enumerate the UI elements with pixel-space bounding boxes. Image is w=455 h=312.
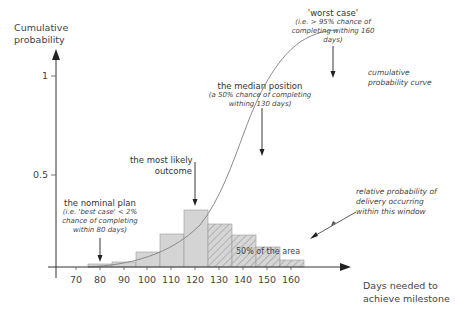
- relative-label-line3: within this window: [356, 207, 426, 217]
- x-tick-label: 90: [114, 274, 134, 286]
- arrow-icon: [310, 232, 318, 239]
- chart-canvas: [0, 0, 455, 312]
- y-tick-label-05: 0.5: [24, 169, 48, 181]
- curve-label-line2: probability curve: [368, 78, 432, 88]
- y-axis-arrow-icon: [52, 49, 60, 60]
- area-label: 50% of the area: [236, 246, 300, 258]
- relative-label-line1: relative probability of: [356, 187, 437, 197]
- curve-label-line1: cumulative: [368, 68, 410, 78]
- annotation-detail: completing withing 160: [288, 27, 378, 36]
- bar-160: [280, 260, 304, 267]
- annotation-detail: (a 50% chance of completing: [205, 91, 315, 100]
- x-tick-label: 160: [279, 274, 303, 286]
- annotation-detail: withing 130 days): [205, 100, 315, 109]
- annotation-detail: (i.e. 'best case' < 2%: [55, 208, 145, 217]
- x-axis-arrow-icon: [340, 263, 351, 271]
- y-tick-label-1: 1: [30, 70, 48, 82]
- annotation-title: outcome: [130, 166, 192, 177]
- arrow-down-icon: [260, 149, 265, 156]
- bar-130: [208, 224, 232, 267]
- x-tick-label: 100: [135, 274, 159, 286]
- y-axis-title-line2: probability: [14, 34, 65, 46]
- x-tick-label: 120: [183, 274, 207, 286]
- annotation-detail: within 80 days): [55, 226, 145, 235]
- x-tick-label: 140: [231, 274, 255, 286]
- x-axis-title-line1: Days needed to: [363, 280, 438, 292]
- annotation-detail: (i.e. > 95% chance of: [288, 18, 378, 27]
- x-tick-label: 150: [255, 274, 279, 286]
- arrow-down-icon: [331, 71, 336, 78]
- relative-label-line2: delivery occurring: [356, 197, 424, 207]
- arrow-down-icon: [193, 199, 198, 206]
- x-tick-label: 130: [207, 274, 231, 286]
- y-axis-title-line1: Cumulative: [14, 22, 68, 34]
- annotation-detail: days): [288, 36, 378, 45]
- x-axis-title-line2: achieve milestone: [363, 293, 450, 305]
- annotation-detail: chance of completing: [55, 217, 145, 226]
- annotation-title: the most likely: [130, 155, 192, 166]
- x-tick-label: 110: [159, 274, 183, 286]
- x-tick-label: 70: [66, 274, 86, 286]
- x-tick-label: 80: [90, 274, 110, 286]
- arrow-down-icon: [98, 255, 103, 262]
